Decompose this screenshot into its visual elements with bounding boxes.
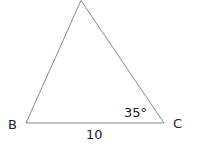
vertex-label-c: C [173,117,182,130]
side-label-bc: 10 [86,128,103,141]
angle-label-c: 35° [124,106,147,119]
vertex-label-b: B [8,118,17,131]
triangle-diagram: B C 35° 10 [0,0,198,154]
